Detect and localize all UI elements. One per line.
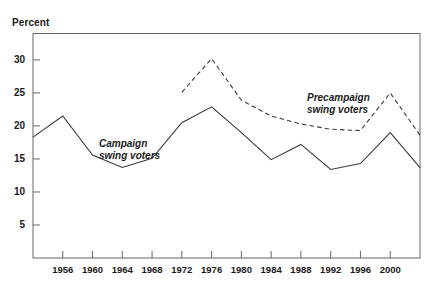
series-line-campaign-swing-voters <box>33 107 420 170</box>
series-line-precampaign-swing-voters <box>182 59 420 136</box>
y-tick-label-5: 5 <box>3 219 25 230</box>
y-tick-label-25: 25 <box>3 87 25 98</box>
plot-frame <box>33 34 420 259</box>
x-tick-label-2000: 2000 <box>373 264 407 275</box>
y-tick-label-20: 20 <box>3 120 25 131</box>
y-tick-label-30: 30 <box>3 54 25 65</box>
chart-canvas <box>0 0 433 293</box>
y-tick-label-15: 15 <box>3 153 25 164</box>
precampaign-series-label: Precampaign swing voters <box>307 92 370 115</box>
campaign-series-label: Campaign swing voters <box>99 138 160 161</box>
chart-figure: Percent 51015202530 19561960196419681972… <box>0 0 433 293</box>
x-axis-ticks <box>63 251 390 258</box>
y-tick-label-10: 10 <box>3 186 25 197</box>
y-axis-ticks <box>33 60 40 225</box>
